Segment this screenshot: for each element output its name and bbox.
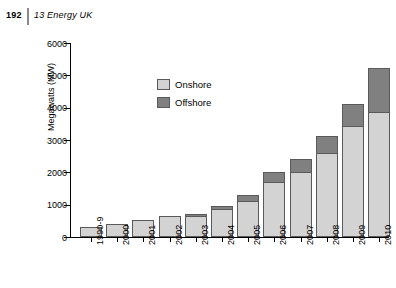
page-number: 192	[6, 10, 22, 20]
x-tick-mark	[143, 237, 144, 242]
bar-segment-offshore[interactable]	[368, 68, 390, 112]
x-tick-label: 2010	[383, 225, 393, 245]
x-tick-label: 2000	[121, 225, 131, 245]
legend-label-onshore: Onshore	[175, 79, 211, 90]
y-tick-label: 2000	[47, 168, 67, 178]
x-tick-label: 2006	[278, 225, 288, 245]
bar-stack[interactable]	[316, 136, 338, 237]
x-tick-label: 2004	[226, 225, 236, 245]
bar-segment-onshore[interactable]	[342, 126, 364, 237]
x-tick-mark	[379, 237, 380, 242]
legend-item-offshore: Offshore	[157, 93, 247, 111]
chapter-title: 13 Energy UK	[34, 10, 92, 20]
x-tick-mark	[196, 237, 197, 242]
x-tick-mark	[248, 237, 249, 242]
x-tick-label: 2001	[147, 225, 157, 245]
plot-area	[71, 43, 389, 237]
x-tick-label: 2008	[331, 225, 341, 245]
x-tick-mark	[170, 237, 171, 242]
legend-swatch-offshore	[157, 97, 170, 108]
x-tick-mark	[353, 237, 354, 242]
chart-legend: Onshore Offshore	[157, 75, 247, 111]
chart-figure: Megawatts (MW) 0100020003000400050006000…	[0, 30, 396, 288]
y-tick-label: 4000	[47, 103, 67, 113]
x-tick-label: 1990-9	[95, 216, 105, 245]
x-tick-mark	[327, 237, 328, 242]
bar-stack[interactable]	[368, 68, 390, 237]
x-tick-label: 2003	[200, 225, 210, 245]
x-tick-mark	[274, 237, 275, 242]
bar-segment-offshore[interactable]	[237, 195, 259, 202]
x-tick-mark	[117, 237, 118, 242]
bar-segment-offshore[interactable]	[316, 136, 338, 153]
x-tick-label: 2009	[357, 225, 367, 245]
running-header: 192 13 Energy UK	[0, 8, 396, 28]
x-tick-label: 2002	[174, 225, 184, 245]
bar-segment-offshore[interactable]	[263, 172, 285, 182]
y-tick-label: 3000	[47, 136, 67, 146]
legend-swatch-onshore	[157, 79, 170, 90]
y-tick-label: 1000	[47, 200, 67, 210]
y-tick-label: 6000	[47, 39, 67, 49]
x-tick-label: 2007	[305, 225, 315, 245]
y-tick-label: 0	[62, 233, 67, 243]
header-divider	[27, 8, 29, 25]
bar-segment-offshore[interactable]	[290, 159, 312, 172]
bar-stack[interactable]	[342, 104, 364, 237]
x-tick-mark	[301, 237, 302, 242]
x-tick-mark	[91, 237, 92, 242]
bar-segment-offshore[interactable]	[342, 104, 364, 126]
x-tick-mark	[222, 237, 223, 242]
bar-segment-onshore[interactable]	[368, 112, 390, 237]
x-tick-label: 2005	[252, 225, 262, 245]
y-tick-label: 5000	[47, 71, 67, 81]
legend-label-offshore: Offshore	[175, 97, 211, 108]
legend-item-onshore: Onshore	[157, 75, 247, 93]
